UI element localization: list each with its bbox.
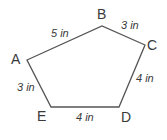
- pentagon-diagram: A B C D E 5 in 3 in 4 in 4 in 3 in: [0, 0, 167, 140]
- side-label-cd: 4 in: [136, 72, 154, 84]
- side-label-bc: 3 in: [121, 19, 139, 31]
- pentagon-shape: [27, 26, 145, 107]
- vertex-label-e: E: [37, 108, 46, 124]
- vertex-label-a: A: [11, 51, 21, 67]
- side-label-ea: 3 in: [17, 81, 35, 93]
- vertex-label-b: B: [97, 6, 106, 22]
- vertex-label-d: D: [121, 109, 131, 125]
- side-label-ab: 5 in: [51, 27, 69, 39]
- vertex-label-c: C: [147, 37, 157, 53]
- side-label-de: 4 in: [76, 111, 94, 123]
